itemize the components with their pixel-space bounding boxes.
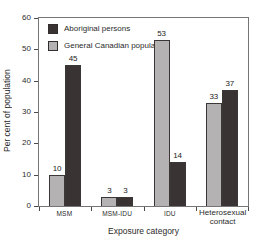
- bar-group-msm-idu: 33: [91, 18, 143, 206]
- bar-msm-idu-aboriginal-persons: 3: [117, 197, 133, 206]
- y-axis-tick-label: 20: [22, 139, 31, 147]
- y-axis-title: Per cent of population: [0, 17, 14, 205]
- y-axis-tick-label: 40: [22, 77, 31, 85]
- bar-group-msm: 1045: [39, 18, 91, 206]
- bar-value-label: 33: [209, 93, 218, 101]
- y-axis-tick: [34, 112, 38, 113]
- bar-value-label: 45: [69, 55, 78, 63]
- y-axis-tick: [34, 49, 38, 50]
- x-category-label-heterosexual-contact: Heterosexual contact: [196, 208, 249, 226]
- bar-groups: 10453353143337: [39, 18, 248, 206]
- y-axis-tick: [34, 18, 38, 19]
- bar-idu-aboriginal-persons: 14: [170, 162, 186, 206]
- bar-msm-aboriginal-persons: 45: [65, 65, 81, 206]
- x-category-label-idu: IDU: [144, 208, 197, 226]
- y-axis-tick: [34, 143, 38, 144]
- bar-msm-idu-general-canadian-population: 3: [101, 197, 117, 206]
- y-axis-tick: [34, 206, 38, 207]
- bar-value-label: 53: [157, 30, 166, 38]
- y-axis-tick: [34, 175, 38, 176]
- bar-heterosexual-contact-aboriginal-persons: 37: [222, 90, 238, 206]
- grouped-bar-chart-figure: Per cent of population Aboriginal person…: [0, 0, 265, 249]
- y-axis-tick-label: 50: [22, 45, 31, 53]
- plot-area: Aboriginal personsGeneral Canadian popul…: [38, 17, 249, 207]
- x-category-label-msm-idu: MSM-IDU: [91, 208, 144, 226]
- bar-idu-general-canadian-population: 53: [154, 40, 170, 206]
- x-category-labels: MSMMSM-IDUIDUHeterosexual contact: [38, 208, 249, 226]
- bar-heterosexual-contact-general-canadian-population: 33: [206, 103, 222, 206]
- bar-value-label: 10: [53, 165, 62, 173]
- x-category-label-msm: MSM: [38, 208, 91, 226]
- bar-group-idu: 5314: [144, 18, 196, 206]
- y-axis-tick-label: 0: [27, 202, 31, 210]
- y-axis-tick-label: 60: [22, 14, 31, 22]
- bar-value-label: 3: [107, 187, 111, 195]
- bar-msm-general-canadian-population: 10: [49, 175, 65, 206]
- bar-group-heterosexual-contact: 3337: [196, 18, 248, 206]
- bar-value-label: 14: [173, 152, 182, 160]
- y-axis-tick-label: 30: [22, 108, 31, 116]
- bar-value-label: 3: [123, 187, 127, 195]
- y-axis-tick-label: 10: [22, 171, 31, 179]
- y-axis-tick: [34, 81, 38, 82]
- bar-value-label: 37: [225, 80, 234, 88]
- x-axis-title: Exposure category: [38, 226, 249, 236]
